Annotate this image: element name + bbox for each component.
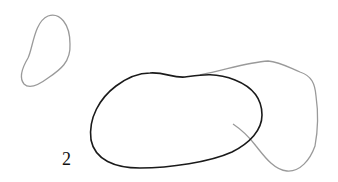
large-black-closed-curve [91,73,262,168]
figure-canvas [0,0,338,182]
small-gray-blob [21,15,70,86]
gray-open-curve [200,61,317,171]
figure-label: 2 [62,150,71,168]
